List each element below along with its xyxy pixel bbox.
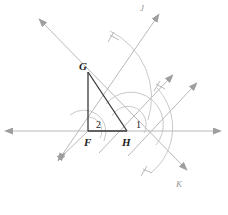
angle-label-2: 2	[96, 120, 101, 130]
vertex-label-h: H	[122, 137, 131, 148]
arc-tick-upper	[108, 32, 119, 42]
triangle-hypotenuse-gh	[88, 72, 127, 131]
angle-arc-large-right	[152, 88, 173, 172]
ray-label-j: J	[140, 4, 144, 13]
vertex-label-g: G	[79, 61, 87, 72]
angle-label-1: 1	[136, 120, 141, 130]
ray-label-k: K	[176, 180, 182, 189]
geometry-figure: G F H 2 1 J K	[0, 0, 228, 215]
upper-right-ray-j	[62, 20, 155, 155]
vertex-label-f: F	[84, 137, 91, 148]
line-through-g	[44, 24, 182, 165]
arc-tick-lower	[141, 166, 152, 176]
figure-canvas	[0, 0, 228, 215]
